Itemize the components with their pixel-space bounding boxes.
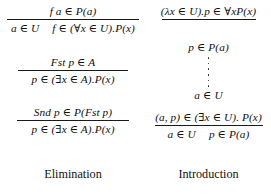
inference-bar [17,120,129,121]
rule-exists-introduction: (a, p) ∈ (∃x ∈ U). P(x) a ∈ Up ∈ P(a) [146,110,271,141]
introduction-column: (λx ∈ U).p ∈ ∀xP(x) p ∈ P(a) a ∈ U (a, p… [146,0,271,195]
rule-exists-elimination-snd: Snd p ∈ P(Fst p) p ∈ (∃x ∈ A).P(x) [0,105,146,136]
derivation-assumption: a ∈ U [146,88,271,102]
inference-rules-figure: f a ∈ P(a) a ∈ Uf ∈ (∀x ∈ U).P(x) Fst p … [0,0,271,195]
dot [208,68,210,70]
conclusion-part-1: a ∈ U [11,22,39,34]
rule-premise: Fst p ∈ A [0,55,146,69]
rule-conclusion: p ∈ (∃x ∈ A).P(x) [0,122,146,136]
introduction-caption: Introduction [146,167,271,181]
inference-bar [162,19,256,20]
rule-exists-elimination-fst: Fst p ∈ A p ∈ (∃x ∈ A).P(x) [0,55,146,86]
conclusion-part-2: p ∈ P(a) [209,128,250,140]
elimination-caption: Elimination [0,167,146,181]
dot [208,63,210,65]
inference-bar [7,19,139,20]
rule-premise: (a, p) ∈ (∃x ∈ U). P(x) [146,110,271,124]
dot [208,80,210,82]
dot [208,85,210,87]
rule-premise: (λx ∈ U).p ∈ ∀xP(x) [146,4,271,18]
derivation-dots-icon [146,57,271,87]
assumption-text: a ∈ U [146,88,271,102]
rule-premise: Snd p ∈ P(Fst p) [0,105,146,119]
inference-bar [18,70,128,71]
rule-conclusion: p ∈ (∃x ∈ A).P(x) [0,72,146,86]
inference-bar [155,125,263,126]
rule-conclusion-wrapper: p ∈ P(a) [146,40,271,54]
conclusion-part-1: a ∈ U [168,128,196,140]
rule-conclusion: a ∈ Uf ∈ (∀x ∈ U).P(x) [0,21,146,35]
conclusion-part-2: f ∈ (∀x ∈ U).P(x) [52,22,135,34]
rule-forall-elimination: f a ∈ P(a) a ∈ Uf ∈ (∀x ∈ U).P(x) [0,4,146,35]
rule-conclusion: a ∈ Up ∈ P(a) [146,127,271,141]
rule-forall-introduction: (λx ∈ U).p ∈ ∀xP(x) [146,4,271,21]
dot [208,57,210,59]
elimination-column: f a ∈ P(a) a ∈ Uf ∈ (∀x ∈ U).P(x) Fst p … [0,0,146,195]
rule-conclusion: p ∈ P(a) [146,40,271,54]
dot [208,74,210,76]
rule-premise: f a ∈ P(a) [0,4,146,18]
